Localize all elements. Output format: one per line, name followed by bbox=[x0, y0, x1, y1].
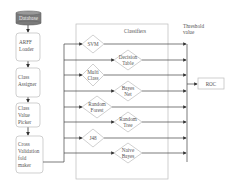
class-value-picker-line-3: Picker bbox=[18, 119, 32, 125]
database-label: Database bbox=[19, 15, 39, 21]
cv-line-1: Cross bbox=[18, 141, 30, 147]
random-forest-line-2: Forest bbox=[91, 107, 105, 113]
decision-table-line-2: Table bbox=[122, 60, 134, 66]
cv-line-3: fold bbox=[18, 155, 27, 161]
roc-label: ROC bbox=[206, 81, 217, 87]
class-value-picker-line-1: Class bbox=[18, 105, 29, 111]
naive-bayes-line-2: Bayes bbox=[122, 153, 135, 159]
arff-loader-line-1: ARFF bbox=[19, 39, 32, 45]
svm-label: SVM bbox=[87, 41, 99, 47]
class-assigner-line-2: Assigner bbox=[18, 81, 37, 87]
arff-loader-node: ARFF Loader bbox=[16, 33, 40, 61]
class-assigner-node: Class Assigner bbox=[16, 68, 40, 97]
bayes-net-line-2: Net bbox=[124, 91, 132, 97]
threshold-line-2: value bbox=[183, 29, 195, 35]
j48-label: J48 bbox=[89, 135, 97, 141]
roc-node: ROC bbox=[198, 78, 224, 89]
cross-validation-fold-maker-node: Cross Validation fold maker bbox=[16, 136, 43, 173]
class-assigner-line-1: Class bbox=[18, 74, 29, 80]
arff-loader-line-2: Loader bbox=[19, 46, 34, 52]
cv-line-2: Validation bbox=[18, 148, 40, 154]
random-tree-line-2: Tree bbox=[123, 122, 133, 128]
classifiers-title: Classifiers bbox=[124, 28, 146, 34]
workflow-diagram: Database ARFF Loader Class Assigner Clas… bbox=[0, 0, 234, 188]
multi-class-line-2: Class bbox=[87, 75, 98, 81]
class-value-picker-node: Class Value Picker bbox=[16, 103, 40, 127]
cv-line-4: maker bbox=[18, 162, 31, 168]
database-node: Database bbox=[16, 11, 41, 25]
class-value-picker-line-2: Value bbox=[18, 112, 31, 118]
